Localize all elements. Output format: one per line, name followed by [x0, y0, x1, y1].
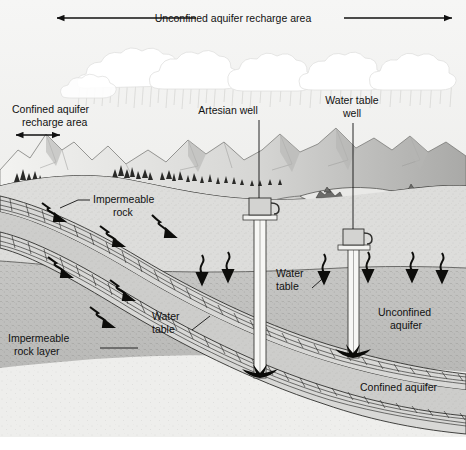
impermeable-rock-layer-label-line1: Impermeable	[8, 332, 69, 344]
impermeable-rock-layer-label-line2: rock layer	[14, 345, 60, 357]
water-table-well-head-box	[343, 229, 364, 245]
impermeable-rock-label-line2: rock	[113, 206, 134, 218]
water-table-left-label-line2: table	[152, 323, 175, 335]
artesian-well-head-box	[249, 198, 271, 215]
water-table-well-label-line2: well	[342, 107, 361, 119]
water-table-well-label-line1: Water table	[325, 94, 378, 106]
water-table-well-base-plate	[338, 245, 370, 250]
confined-recharge-label-line1: Confined aquifer	[12, 103, 90, 115]
confined-aquifer-label-group: Confined aquifer	[360, 381, 438, 393]
impermeable-rock-label-line1: Impermeable	[93, 193, 154, 205]
water-table-left-label-line1: Water	[152, 310, 180, 322]
diagram-canvas: Unconfined aquifer recharge area	[0, 0, 466, 450]
confined-recharge-label-line2: recharge area	[22, 116, 88, 128]
unconfined-aquifer-label-line1: Unconfined	[378, 306, 431, 318]
bottom-margin	[0, 437, 466, 450]
artesian-well-label: Artesian well	[198, 104, 258, 116]
confined-aquifer-label: Confined aquifer	[360, 381, 438, 393]
water-table-center-label-line2: table	[276, 280, 299, 292]
water-table-center-label-line1: Water	[276, 267, 304, 279]
artesian-well-base-plate	[243, 215, 277, 220]
unconfined-recharge-label: Unconfined aquifer recharge area	[155, 12, 312, 24]
unconfined-aquifer-label-line2: aquifer	[390, 319, 423, 331]
aquifer-diagram: Unconfined aquifer recharge area	[0, 0, 466, 450]
